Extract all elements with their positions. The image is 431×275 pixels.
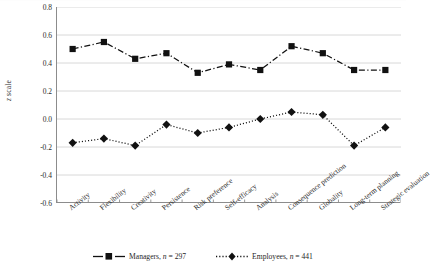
data-point-marker <box>351 67 357 73</box>
data-point-marker <box>70 46 76 52</box>
data-point-marker <box>381 123 389 131</box>
legend-label-managers: Managers, n = 297 <box>129 252 186 261</box>
data-point-marker <box>195 70 201 76</box>
y-tick-label: 0.2 <box>6 87 52 96</box>
data-point-marker <box>69 139 77 147</box>
data-point-marker <box>162 121 170 129</box>
legend-label-employees: Employees, n = 441 <box>252 252 313 261</box>
data-point-marker <box>194 129 202 137</box>
series-employees <box>69 108 390 150</box>
data-point-marker <box>101 39 107 45</box>
figure-top-rule <box>0 0 406 1</box>
y-tick-label: 0.8 <box>6 3 52 12</box>
data-point-marker <box>225 123 233 131</box>
data-point-marker <box>256 115 264 123</box>
plot-area <box>56 7 400 203</box>
y-axis-tick-labels: 0.80.60.40.20.0-0.2-0.4-0.6 <box>0 7 52 203</box>
data-point-marker <box>382 67 388 73</box>
y-tick-label: 0.6 <box>6 31 52 40</box>
data-point-marker <box>257 67 263 73</box>
series-managers <box>70 39 389 76</box>
legend-managers-prefix: Managers, <box>129 252 163 261</box>
legend-key-employees <box>216 252 248 261</box>
data-point-marker <box>100 135 108 143</box>
y-tick-label: -0.6 <box>6 199 52 208</box>
chart-legend: Managers, n = 297 Employees, n = 441 <box>0 252 406 261</box>
data-point-marker <box>226 61 232 67</box>
y-tick-label: -0.2 <box>6 143 52 152</box>
data-point-marker <box>163 50 169 56</box>
legend-managers-suffix: = 297 <box>167 252 186 261</box>
y-tick-label: -0.4 <box>6 171 52 180</box>
data-point-marker <box>288 43 294 49</box>
legend-entry-managers: Managers, n = 297 <box>93 252 186 261</box>
data-point-marker <box>132 56 138 62</box>
legend-employees-prefix: Employees, <box>252 252 290 261</box>
data-point-marker <box>319 111 327 119</box>
data-point-marker <box>320 50 326 56</box>
y-tick-label: 0.4 <box>6 59 52 68</box>
legend-employees-suffix: = 441 <box>293 252 312 261</box>
series-line <box>73 42 386 73</box>
legend-key-managers <box>93 252 125 261</box>
chart-plot-svg <box>57 7 401 203</box>
data-point-marker <box>287 108 295 116</box>
data-point-marker <box>131 142 139 150</box>
y-tick-label: 0.0 <box>6 115 52 124</box>
legend-entry-employees: Employees, n = 441 <box>216 252 313 261</box>
